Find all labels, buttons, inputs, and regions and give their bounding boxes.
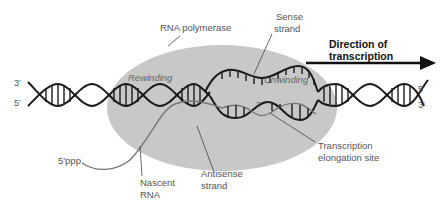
label-elongation-1: Transcription [318,140,373,151]
label-direction-1: Direction of [329,38,388,50]
label-rna-polymerase: RNA polymerase [160,22,231,33]
end-right-bottom: 3′ [418,100,425,110]
label-direction-2: transcription [329,50,393,62]
label-5ppp: 5′ppp [58,155,81,166]
label-rewinding: Rewinding [128,72,173,83]
leader-rna-polymerase [168,36,180,46]
label-nascent-rna-2: RNA [140,189,161,200]
label-elongation-2: elongation site [318,152,379,163]
label-sense-strand-2: strand [274,23,300,34]
end-left-top: 3′ [14,78,21,88]
end-left-bottom: 5′ [14,98,21,108]
label-rna-3prime: 3′ [256,100,262,109]
label-antisense-1: Antisense [201,168,243,179]
label-sense-strand-1: Sense [276,11,303,22]
end-right-top: 5′ [418,84,425,94]
label-nascent-rna-1: Nascent [140,177,175,188]
label-unwinding: Unwinding [264,74,309,85]
label-antisense-2: strand [201,180,227,191]
transcription-diagram: RNA polymerase Sense strand Direction of… [0,0,440,207]
